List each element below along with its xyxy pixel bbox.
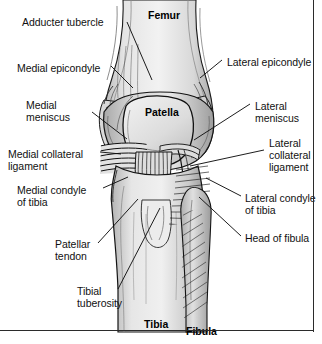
label-lateral-meniscus-line-2: meniscus: [255, 112, 299, 124]
frame-bottom-border: [0, 330, 314, 331]
label-head-of-fibula: Head of fibula: [245, 232, 309, 244]
label-medial-condyle-of-tibia: Medial condyleof tibia: [17, 184, 86, 208]
label-medial-meniscus: Medialmeniscus: [26, 99, 70, 123]
label-lateral-meniscus: Lateralmeniscus: [255, 100, 299, 124]
bone-label-tibia: Tibia: [144, 318, 168, 330]
label-adducter-tubercle: Adducter tubercle: [22, 16, 103, 28]
label-patellar-tendon-line-1: Patellar: [55, 238, 90, 250]
label-lateral-condyle-of-tibia-line-1: Lateral condyle: [245, 192, 315, 204]
knee-anatomy-figure: Adducter tubercleMedial epicondyleMedial…: [0, 0, 322, 344]
frame-right-border: [313, 0, 314, 332]
label-patellar-tendon: Patellartendon: [55, 238, 90, 262]
bone-label-patella: Patella: [145, 106, 179, 118]
label-tibial-tuberosity-line-2: tuberosity: [77, 297, 122, 309]
bone-label-fibula: Fibula: [186, 325, 217, 337]
label-medial-meniscus-line-2: meniscus: [26, 111, 70, 123]
label-medial-collateral-ligament-line-2: ligament: [8, 160, 83, 172]
label-head-of-fibula-line-1: Head of fibula: [245, 232, 309, 244]
label-lateral-condyle-of-tibia-line-2: of tibia: [245, 204, 315, 216]
label-lateral-collateral-ligament-line-3: ligament: [269, 161, 311, 173]
label-medial-epicondyle-line-1: Medial epicondyle: [17, 62, 100, 74]
label-medial-collateral-ligament-line-1: Medial collateral: [8, 148, 83, 160]
label-adducter-tubercle-line-1: Adducter tubercle: [22, 16, 103, 28]
bone-label-femur: Femur: [148, 9, 180, 21]
label-lateral-collateral-ligament-line-1: Lateral: [269, 137, 311, 149]
label-medial-condyle-of-tibia-line-2: of tibia: [17, 196, 86, 208]
leader-lateral-condyle-of-tibia: [206, 178, 241, 196]
label-medial-epicondyle: Medial epicondyle: [17, 62, 100, 74]
label-lateral-epicondyle-line-1: Lateral epicondyle: [227, 56, 311, 68]
label-lateral-epicondyle: Lateral epicondyle: [227, 56, 311, 68]
label-medial-meniscus-line-1: Medial: [26, 99, 70, 111]
label-tibial-tuberosity-line-1: Tibial: [77, 285, 122, 297]
label-patellar-tendon-line-2: tendon: [55, 250, 90, 262]
label-lateral-collateral-ligament-line-2: collateral: [269, 149, 311, 161]
label-tibial-tuberosity: Tibialtuberosity: [77, 285, 122, 309]
label-lateral-collateral-ligament: Lateralcollateralligament: [269, 137, 311, 174]
label-medial-condyle-of-tibia-line-1: Medial condyle: [17, 184, 86, 196]
label-lateral-condyle-of-tibia: Lateral condyleof tibia: [245, 192, 315, 216]
label-lateral-meniscus-line-1: Lateral: [255, 100, 299, 112]
label-medial-collateral-ligament: Medial collateralligament: [8, 148, 83, 172]
